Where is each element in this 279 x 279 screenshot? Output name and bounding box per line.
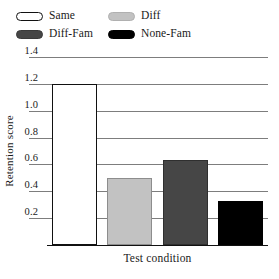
- x-axis-title: Test condition: [47, 252, 268, 264]
- legend-item-same: Same: [16, 7, 108, 25]
- legend-item-diff-fam: Diff-Fam: [16, 25, 108, 43]
- bar-series: [47, 57, 268, 245]
- y-tick-mark: [29, 111, 47, 112]
- y-tick-mark: [29, 164, 47, 165]
- chart-legend: Same Diff Diff-Fam None-Fam: [16, 7, 226, 43]
- y-tick-label: 0.8: [25, 126, 42, 137]
- bar-diff-fam: [163, 160, 208, 245]
- y-tick-label: 0.2: [25, 207, 42, 218]
- y-tick-mark: [29, 84, 47, 85]
- y-tick-mark: [29, 57, 47, 58]
- y-tick-label: 1.0: [25, 99, 42, 110]
- legend-label-diff-fam: Diff-Fam: [49, 28, 93, 40]
- y-tick-mark: [29, 191, 47, 192]
- chart-figure: Same Diff Diff-Fam None-Fam Retention sc…: [0, 0, 279, 279]
- legend-label-none-fam: None-Fam: [141, 28, 191, 40]
- legend-item-diff: Diff: [108, 7, 200, 25]
- legend-label-same: Same: [49, 10, 75, 22]
- y-tick-label: 0.6: [25, 153, 42, 164]
- legend-label-diff: Diff: [141, 10, 160, 22]
- legend-swatch-diff-fam: [16, 30, 43, 39]
- legend-swatch-diff: [108, 12, 135, 21]
- y-tick-label: 1.4: [25, 46, 42, 57]
- legend-swatch-none-fam: [108, 30, 135, 39]
- y-tick-mark: [29, 218, 47, 219]
- bar-none-fam: [218, 201, 263, 245]
- y-axis-title-label: Retention score: [3, 115, 15, 187]
- y-tick-label: 1.2: [25, 72, 42, 83]
- x-axis-baseline: [47, 245, 268, 246]
- bar-diff: [107, 178, 152, 245]
- legend-item-none-fam: None-Fam: [108, 25, 200, 43]
- legend-swatch-same: [16, 12, 43, 21]
- y-axis-title: Retention score: [2, 57, 16, 245]
- bar-same: [52, 84, 97, 245]
- plot-area: 1.41.21.00.80.60.40.2: [47, 57, 268, 245]
- y-tick-label: 0.4: [25, 180, 42, 191]
- y-tick-mark: [29, 138, 47, 139]
